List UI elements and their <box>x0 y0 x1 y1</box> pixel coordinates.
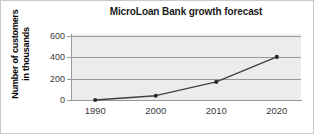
y-tick-mark <box>67 79 71 80</box>
y-tick-mark <box>67 36 71 37</box>
data-point-marker <box>275 55 279 59</box>
y-axis-label: Number of customers in thousands <box>6 6 36 102</box>
data-point-marker <box>93 98 97 102</box>
y-tick-label: 0 <box>35 95 65 105</box>
x-tick-label: 2000 <box>136 105 176 116</box>
y-axis-label-line-1: Number of customers <box>10 9 21 98</box>
x-tick-label: 1990 <box>75 105 115 116</box>
data-point-marker <box>214 80 218 84</box>
x-tick-label: 2010 <box>196 105 236 116</box>
y-axis-label-line-2: in thousands <box>21 27 32 81</box>
chart-title: MicroLoan Bank growth forecast <box>71 6 301 17</box>
data-point-marker <box>154 94 158 98</box>
series-line <box>95 57 277 100</box>
y-tick-label: 400 <box>35 52 65 62</box>
y-tick-label: 600 <box>35 31 65 41</box>
x-tick-label: 2020 <box>257 105 297 116</box>
series-line-chart <box>71 34 301 100</box>
chart-figure: MicroLoan Bank growth forecast Number of… <box>0 0 314 134</box>
y-tick-mark <box>67 57 71 58</box>
y-tick-label: 200 <box>35 74 65 84</box>
x-axis-line <box>71 100 302 101</box>
y-tick-mark <box>67 100 71 101</box>
